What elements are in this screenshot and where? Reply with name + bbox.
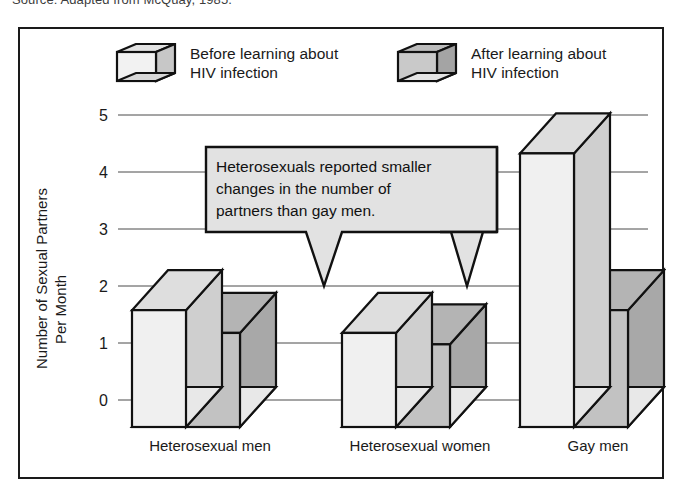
y-tick-label: 4 bbox=[99, 164, 108, 181]
y-axis-title: Number of Sexual Partners Per Month bbox=[33, 188, 69, 369]
bar-before bbox=[520, 113, 610, 427]
bar-front-face bbox=[342, 333, 396, 427]
source-caption: Source: Adapted from McQuay, 1985. bbox=[12, 0, 232, 7]
bar-group bbox=[132, 270, 276, 427]
y-tick-label: 1 bbox=[99, 335, 108, 352]
bar-group bbox=[342, 293, 486, 427]
x-category-label: Gay men bbox=[568, 437, 629, 454]
y-tick-label: 2 bbox=[99, 278, 108, 295]
y-tick-label: 3 bbox=[99, 221, 108, 238]
x-category-labels: Heterosexual menHeterosexual womenGay me… bbox=[149, 437, 628, 454]
y-tick-label: 5 bbox=[99, 107, 108, 124]
svg-text:Number of Sexual Partners: Number of Sexual Partners bbox=[33, 188, 50, 369]
svg-text:Per Month: Per Month bbox=[52, 275, 69, 344]
figure-frame: Before learning about HIV infection Afte… bbox=[18, 27, 664, 479]
bar-front-face bbox=[132, 310, 186, 427]
x-category-label: Heterosexual women bbox=[350, 437, 491, 454]
x-category-label: Heterosexual men bbox=[149, 437, 271, 454]
bar-side-face bbox=[574, 113, 610, 427]
y-tick-label: 0 bbox=[99, 392, 108, 409]
y-tick-labels: 012345 bbox=[99, 107, 108, 409]
bar-before bbox=[132, 270, 222, 427]
bar-group bbox=[520, 113, 664, 427]
bar-front-face bbox=[520, 153, 574, 427]
chart-plot-area: Number of Sexual Partners Per Month 0123… bbox=[20, 29, 666, 481]
callout-balloon bbox=[206, 147, 497, 286]
